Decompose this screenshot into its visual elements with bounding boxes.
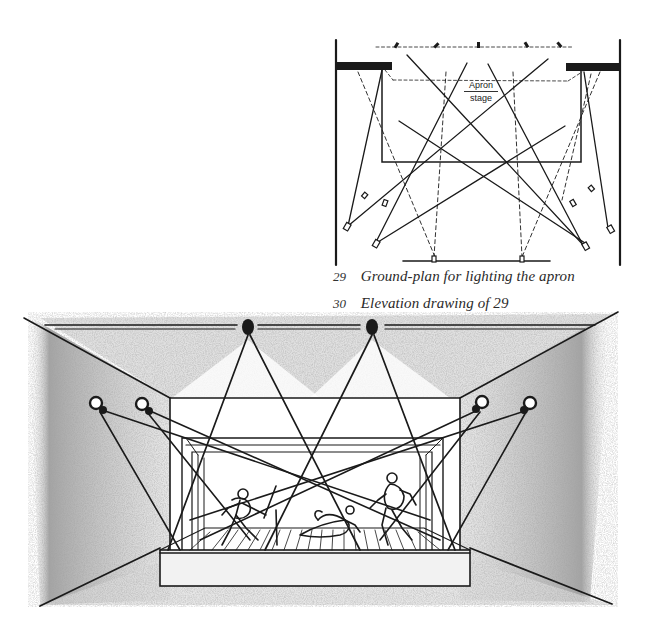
book-page: Apron stage 29 Ground-plan for lighting … (0, 0, 649, 638)
elevation-drawing (0, 0, 649, 638)
